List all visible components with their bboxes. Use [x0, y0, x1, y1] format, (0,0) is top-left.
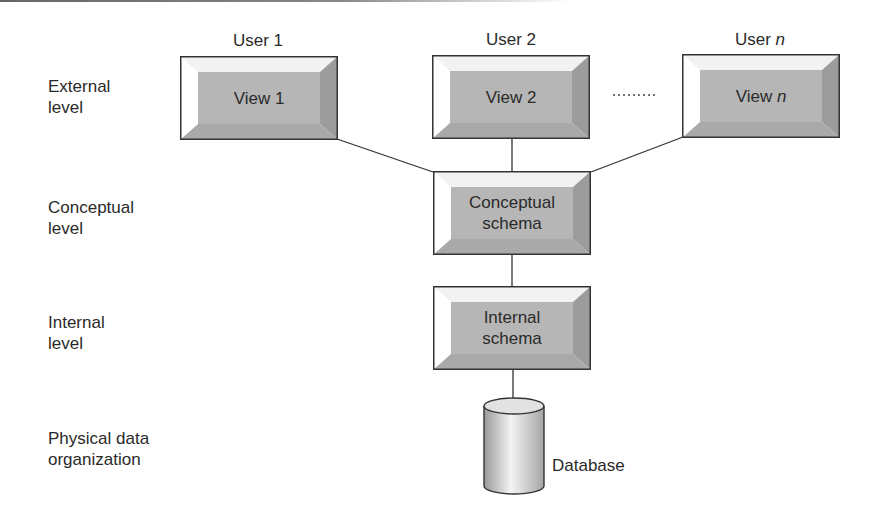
- view-suffix: n: [777, 87, 786, 106]
- user-label-n: User n: [680, 30, 840, 50]
- view-prefix: View: [486, 88, 523, 107]
- view-label: View n: [700, 70, 822, 122]
- label-line: Internal: [482, 307, 542, 328]
- connector-viewn-conceptual: [591, 137, 683, 172]
- connector-view1-conceptual: [337, 139, 433, 172]
- database-cylinder-icon: [482, 396, 546, 498]
- label-line: level: [48, 97, 110, 118]
- conceptual-schema-label: Conceptual schema: [451, 187, 573, 239]
- view-box-n: View n: [682, 54, 840, 138]
- label-line: schema: [469, 213, 555, 234]
- view-prefix: View: [234, 89, 271, 108]
- view-suffix: 2: [527, 88, 536, 107]
- label-line: Conceptual: [469, 192, 555, 213]
- level-label-external: External level: [48, 76, 110, 118]
- user-prefix: User: [735, 30, 771, 49]
- user-prefix: User: [486, 30, 522, 49]
- conceptual-schema-box: Conceptual schema: [433, 171, 591, 255]
- label-line: organization: [48, 449, 149, 470]
- level-label-conceptual: Conceptual level: [48, 197, 134, 239]
- view-label: View 1: [198, 72, 320, 124]
- internal-schema-label: Internal schema: [451, 302, 573, 354]
- user-label-1: User 1: [178, 31, 338, 51]
- label-line: Physical data: [48, 428, 149, 449]
- label-line: Conceptual: [48, 197, 134, 218]
- view-box-2: View 2: [432, 55, 590, 139]
- view-label: View 2: [450, 71, 572, 123]
- level-label-physical: Physical data organization: [48, 428, 149, 470]
- label-line: level: [48, 218, 134, 239]
- user-label-2: User 2: [431, 30, 591, 50]
- level-label-internal: Internal level: [48, 312, 105, 354]
- label-line: Internal: [48, 312, 105, 333]
- label-line: External: [48, 76, 110, 97]
- label-line: schema: [482, 328, 542, 349]
- label-line: level: [48, 333, 105, 354]
- user-suffix: 1: [274, 31, 283, 50]
- user-suffix: n: [776, 30, 785, 49]
- view-prefix: View: [736, 87, 773, 106]
- view-suffix: 1: [275, 89, 284, 108]
- user-suffix: 2: [527, 30, 536, 49]
- database-label: Database: [552, 456, 625, 476]
- internal-schema-box: Internal schema: [433, 286, 591, 370]
- view-box-1: View 1: [180, 56, 338, 140]
- user-prefix: User: [233, 31, 269, 50]
